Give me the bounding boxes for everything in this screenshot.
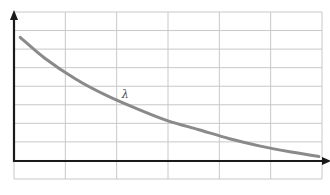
chart-canvas: λ [0, 0, 330, 195]
x-axis-arrow-icon [322, 157, 330, 165]
decay-curve-diagram: λ [0, 0, 330, 195]
curve-label-lambda: λ [121, 88, 129, 101]
grid-lines [14, 12, 322, 179]
